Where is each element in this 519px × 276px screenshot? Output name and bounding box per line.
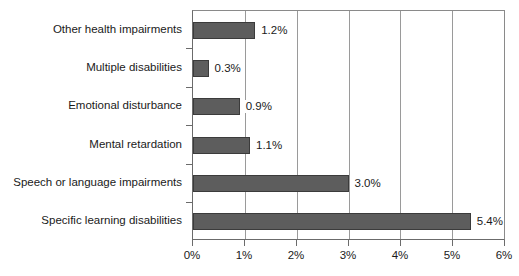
x-axis-label-5pct: 5% — [432, 249, 472, 262]
x-tick-1pct — [244, 240, 245, 246]
category-label-emotional-disturbance: Emotional disturbance — [0, 87, 188, 125]
bar-row: 0.9% — [193, 88, 504, 126]
bar-emotional-disturbance — [193, 98, 240, 115]
x-axis-label-0pct: 0% — [172, 249, 212, 262]
x-axis-label-4pct: 4% — [380, 249, 420, 262]
bar-chart: Other health impairments Multiple disabi… — [0, 0, 519, 276]
bar-row: 5.4% — [193, 203, 504, 241]
bar-value-label: 1.1% — [255, 139, 283, 152]
x-axis-label-2pct: 2% — [276, 249, 316, 262]
bar-row: 1.1% — [193, 126, 504, 164]
x-axis-label-1pct: 1% — [224, 249, 264, 262]
x-tick-0pct — [192, 240, 193, 246]
bar-row: 3.0% — [193, 164, 504, 202]
category-axis: Other health impairments Multiple disabi… — [0, 10, 188, 240]
category-label-mental-retardation: Mental retardation — [0, 125, 188, 163]
x-tick-2pct — [296, 240, 297, 246]
bar-row: 1.2% — [193, 11, 504, 49]
bar-multiple-disabilities — [193, 60, 209, 77]
x-axis-label-6pct: 6% — [484, 249, 519, 262]
bar-value-label: 0.9% — [245, 100, 273, 113]
x-tick-5pct — [452, 240, 453, 246]
bar-value-label: 1.2% — [260, 24, 288, 37]
x-tick-3pct — [348, 240, 349, 246]
category-label-specific-learning-disabilities: Specific learning disabilities — [0, 202, 188, 240]
category-label-speech-or-language-impairments: Speech or language impairments — [0, 163, 188, 201]
category-label-multiple-disabilities: Multiple disabilities — [0, 48, 188, 86]
bar-speech-or-language-impairments — [193, 175, 349, 192]
x-tick-4pct — [400, 240, 401, 246]
bar-mental-retardation — [193, 137, 250, 154]
bar-row: 0.3% — [193, 49, 504, 87]
x-axis-label-3pct: 3% — [328, 249, 368, 262]
bar-other-health-impairments — [193, 22, 255, 39]
bar-specific-learning-disabilities — [193, 213, 471, 230]
x-tick-6pct — [504, 240, 505, 246]
plot-area: 1.2% 0.3% 0.9% 1.1% 3.0% 5.4% — [192, 10, 505, 240]
bar-value-label: 3.0% — [354, 177, 382, 190]
category-label-other-health-impairments: Other health impairments — [0, 10, 188, 48]
bar-value-label: 5.4% — [476, 215, 504, 228]
bar-value-label: 0.3% — [214, 62, 242, 75]
